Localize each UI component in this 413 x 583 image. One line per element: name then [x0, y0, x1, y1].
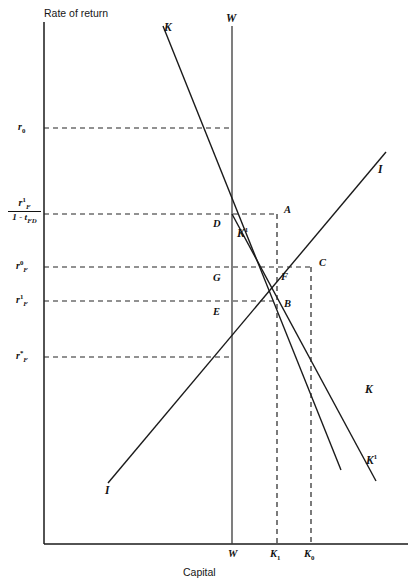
i-supply-curve — [108, 152, 386, 483]
curve-label-k1-right: K1 — [366, 453, 377, 466]
point-label-C: C — [319, 257, 326, 268]
k-demand-curve — [163, 26, 341, 470]
k1-shifted-demand-curve — [232, 214, 376, 481]
y-tick-label-rF1: r1F — [16, 293, 28, 307]
point-label-E: E — [213, 306, 220, 317]
y-tick-label-rFstar: r*F — [16, 349, 28, 363]
x-axis-title: Capital — [183, 566, 216, 578]
point-label-B: B — [284, 298, 291, 309]
curve-label-k-top: K — [164, 21, 172, 33]
fraction-denominator: 1 - tFD — [8, 212, 41, 224]
curve-label-w-top: W — [226, 12, 236, 24]
y-tick-label-r0: r0 — [18, 121, 25, 134]
point-label-A: A — [284, 204, 291, 215]
point-label-G: G — [213, 272, 221, 283]
curve-label-k1-inner: K1 — [237, 226, 248, 239]
economics-diagram: Rate of return Capital r0 r1F 1 - tFD r0… — [0, 0, 413, 583]
y-axis-title: Rate of return — [44, 7, 108, 19]
diagram-canvas — [0, 0, 413, 583]
point-label-D: D — [213, 218, 221, 229]
x-tick-label-K1: K1 — [270, 548, 280, 561]
point-label-F: F — [281, 271, 288, 282]
curve-label-k-right: K — [365, 383, 373, 395]
y-tick-label-rF1-over-1-minus-tFD: r1F 1 - tFD — [8, 196, 41, 224]
x-tick-label-K0: K0 — [304, 548, 314, 561]
y-tick-label-rF0: r0F — [16, 259, 28, 273]
x-tick-label-W: W — [228, 548, 237, 559]
curve-label-i-right: I — [378, 163, 382, 175]
fraction-numerator: r1F — [8, 196, 41, 211]
curve-label-i-left: I — [105, 484, 109, 496]
